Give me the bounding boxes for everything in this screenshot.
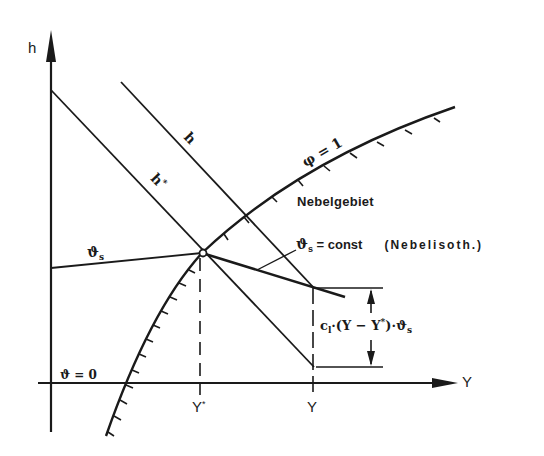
intersection-point xyxy=(200,250,207,257)
y-star-tick-label: Y* xyxy=(192,399,206,414)
y-axis-arrow-icon xyxy=(432,378,458,388)
dim-end-sub: s xyxy=(407,325,412,335)
fog-isotherm-label: ϑs = const(Nebelisoth.) xyxy=(296,237,483,254)
fog-region-label: Nebelgebiet xyxy=(297,195,374,208)
dimension-arrow-down-icon xyxy=(367,351,375,366)
fog-const-text: = const xyxy=(313,237,363,252)
dim-mid: ·(Y − Y xyxy=(331,318,380,333)
y-tick-label: Y xyxy=(307,399,317,414)
y-star-text: Y xyxy=(192,398,202,415)
fog-isotherm xyxy=(202,253,345,297)
y-axis xyxy=(38,378,458,388)
h-axis-arrow-icon xyxy=(46,30,56,62)
isotherm-theta-s-label: ϑs xyxy=(87,245,104,262)
h-star-line xyxy=(51,90,314,367)
saturation-hatch-marks xyxy=(108,118,440,436)
y-star-sup: * xyxy=(202,399,206,409)
dim-end: )·ϑ xyxy=(385,318,407,333)
dim-c: c xyxy=(320,318,328,333)
fog-isotherm-leader xyxy=(257,250,296,270)
dimension-arrow-up-icon xyxy=(367,289,375,304)
dimension-label: cl·(Y − Y*)·ϑs xyxy=(320,318,412,335)
saturation-curve xyxy=(106,107,455,436)
fog-isotherm-paren: (Nebelisoth.) xyxy=(384,238,483,252)
isotherm-theta-s xyxy=(51,253,202,268)
theta-sub: s xyxy=(99,252,104,262)
zero-isotherm-label: ϑ = 0 xyxy=(60,369,97,381)
theta-symbol: ϑ xyxy=(87,244,99,260)
fog-theta-symbol: ϑ xyxy=(296,236,308,252)
h-axis-label: h xyxy=(28,40,36,55)
y-axis-label: Y xyxy=(462,374,472,389)
